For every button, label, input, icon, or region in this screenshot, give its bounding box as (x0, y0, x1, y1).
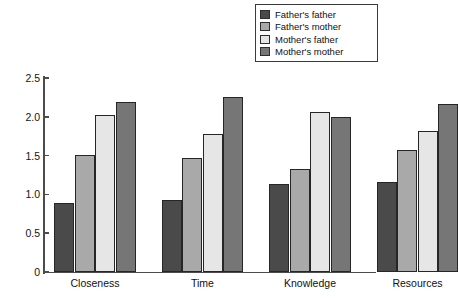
bar (75, 155, 95, 272)
bar (331, 117, 351, 272)
bar-group (377, 78, 459, 272)
bar-group (269, 78, 351, 272)
chart-legend: Father's father Father's mother Mother's… (255, 4, 378, 62)
bar (397, 150, 417, 272)
bar (377, 182, 397, 272)
bar (290, 169, 310, 272)
legend-item: Father's mother (260, 21, 373, 34)
plot-area (44, 78, 374, 272)
bar (95, 115, 115, 272)
bar (418, 131, 438, 272)
bar (438, 104, 458, 272)
y-axis-tick-label: 0.5 (14, 227, 40, 239)
bar (310, 112, 330, 272)
y-axis-tick-label: 2.5 (14, 72, 40, 84)
legend-swatch-icon (260, 47, 270, 56)
legend-swatch-icon (260, 10, 270, 19)
bar-group (162, 78, 244, 272)
legend-swatch-icon (260, 35, 270, 44)
bar (269, 184, 289, 272)
legend-item: Mother's mother (260, 46, 373, 59)
y-axis-tick-label: 1.0 (14, 188, 40, 200)
bar (203, 134, 223, 272)
y-axis-tick-label: 0 (14, 266, 40, 278)
bar (162, 200, 182, 272)
legend-item: Mother's father (260, 33, 373, 46)
y-axis-tick-label: 1.5 (14, 150, 40, 162)
bar (182, 158, 202, 272)
x-axis-category-label: Knowledge (269, 277, 351, 289)
y-axis-tick-labels: 2.52.01.51.00.50 (12, 0, 40, 302)
y-axis-tick-label: 2.0 (14, 111, 40, 123)
x-axis-category-label: Resources (377, 277, 459, 289)
legend-swatch-icon (260, 22, 270, 31)
legend-item: Father's father (260, 8, 373, 21)
legend-item-label: Father's mother (275, 21, 341, 32)
bar (54, 203, 74, 272)
legend-item-label: Mother's mother (275, 46, 343, 57)
bar (223, 97, 243, 272)
bar (116, 102, 136, 272)
x-axis-category-label: Closeness (54, 277, 136, 289)
legend-item-label: Mother's father (275, 34, 338, 45)
bar-group (54, 78, 136, 272)
legend-item-label: Father's father (275, 9, 336, 20)
x-axis-category-label: Time (162, 277, 244, 289)
